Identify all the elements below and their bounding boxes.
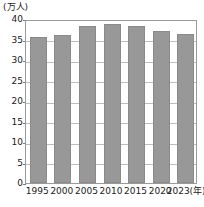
bar — [177, 34, 194, 183]
y-axis-tick-labels: 0510152025303540 — [0, 0, 23, 207]
y-axis-tick-label: 15 — [1, 118, 23, 127]
bar — [104, 24, 121, 183]
y-axis-tick-label: 10 — [1, 138, 23, 147]
y-axis-tick-label: 20 — [1, 97, 23, 106]
bar — [79, 26, 96, 183]
x-axis-tick-label: 2023(年) — [167, 186, 204, 196]
bar — [54, 35, 71, 183]
chart-figure: (万人) 0510152025303540 199520002005201020… — [0, 0, 204, 207]
y-axis-tick-mark — [23, 184, 26, 185]
y-axis-tick-label: 25 — [1, 77, 23, 86]
x-axis-tick-labels: 1995200020052010201520202023(年) — [0, 186, 204, 206]
bar — [30, 37, 47, 183]
bar — [153, 31, 170, 183]
y-axis-tick-label: 30 — [1, 56, 23, 65]
plot-area — [25, 20, 197, 184]
y-axis-tick-label: 35 — [1, 36, 23, 45]
bar — [128, 26, 145, 183]
y-axis-tick-label: 40 — [1, 15, 23, 24]
y-axis-tick-label: 5 — [1, 159, 23, 168]
